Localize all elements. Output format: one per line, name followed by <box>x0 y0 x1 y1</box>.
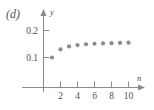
data-point-group <box>50 41 131 60</box>
figure-panel: (d) 0.2 0.1 2 4 6 8 10 y n <box>0 0 154 110</box>
data-point <box>126 41 130 45</box>
x-tick-label-8: 8 <box>109 91 114 101</box>
data-point <box>118 41 122 45</box>
data-point <box>84 42 88 46</box>
x-tick-label-4: 4 <box>75 91 80 101</box>
y-axis-arrow-icon <box>40 9 46 16</box>
x-tick-label-2: 2 <box>58 91 63 101</box>
data-point <box>75 43 79 47</box>
y-tick-label-0.2: 0.2 <box>26 26 38 36</box>
y-tick-label-0.1: 0.1 <box>26 53 38 63</box>
x-tick-label-6: 6 <box>92 91 97 101</box>
y-axis-label: y <box>49 7 54 17</box>
data-point <box>92 42 96 46</box>
x-axis-label: n <box>137 73 141 83</box>
x-axis-arrow-icon <box>138 84 145 90</box>
data-point <box>67 44 71 48</box>
data-point <box>101 41 105 45</box>
data-point <box>58 47 62 51</box>
data-point <box>50 55 54 59</box>
data-point <box>109 41 113 45</box>
scatter-plot: 0.2 0.1 2 4 6 8 10 y n <box>0 0 154 110</box>
x-tick-label-10: 10 <box>124 91 134 101</box>
